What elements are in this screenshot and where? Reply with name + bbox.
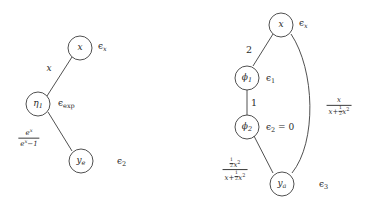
left-edge-eta1-x-label: x xyxy=(46,64,51,73)
fraction-denominator: ex−1 xyxy=(18,138,39,149)
fraction-numerator: ex xyxy=(18,128,39,138)
right-edge-phi1-x-label: 2 xyxy=(246,45,252,55)
fraction-numerator: x xyxy=(327,97,352,105)
left-node-eta1-epsilon-label: ϵexp xyxy=(58,99,75,109)
left-node-eta1-label: η1 xyxy=(33,99,43,109)
right-node-ya-epsilon-label: ϵ3 xyxy=(319,180,328,190)
right-edge-phi1-phi2-label: 1 xyxy=(251,98,257,108)
left-node-ye-epsilon-label: ϵ2 xyxy=(117,157,126,167)
right-node-phi2-label: ϕ2 xyxy=(242,122,252,132)
right-node-ya-label: ya xyxy=(278,179,287,189)
figure-canvas: x ϵx η1 ϵexp ye ϵ2 x ex ex−1 x ϵx ϕ1 ϵ1 … xyxy=(0,0,371,209)
right-node-x-label: x xyxy=(278,20,283,30)
left-edge-eta1-ye-fraction-label: ex ex−1 xyxy=(18,128,39,149)
right-node-phi2-epsilon-label: ϵ2 = 0 xyxy=(266,123,294,133)
right-edge-x-ya-curve xyxy=(291,34,310,173)
right-edge-phi2-ya-fraction-label: 12x2 x+12x2 xyxy=(223,158,248,182)
right-edge-x-ya-fraction-label: x x+12x2 xyxy=(327,97,352,117)
right-node-x-epsilon-label: ϵx xyxy=(299,19,308,29)
fraction-denominator: x+12x2 xyxy=(327,105,352,117)
graph-svg-layer xyxy=(0,0,371,209)
right-edge-phi1-x xyxy=(253,34,273,66)
right-node-phi1-epsilon-label: ϵ1 xyxy=(266,74,275,84)
left-node-ye-label: ye xyxy=(77,156,86,166)
left-edge-eta1-ye xyxy=(48,112,72,151)
right-node-phi1-label: ϕ1 xyxy=(242,73,252,83)
left-node-x-epsilon-label: ϵx xyxy=(98,42,107,52)
fraction-numerator: 12x2 xyxy=(223,158,248,169)
left-node-x-label: x xyxy=(77,43,82,53)
fraction-denominator: x+12x2 xyxy=(223,170,248,182)
right-edge-phi2-ya xyxy=(254,136,273,173)
